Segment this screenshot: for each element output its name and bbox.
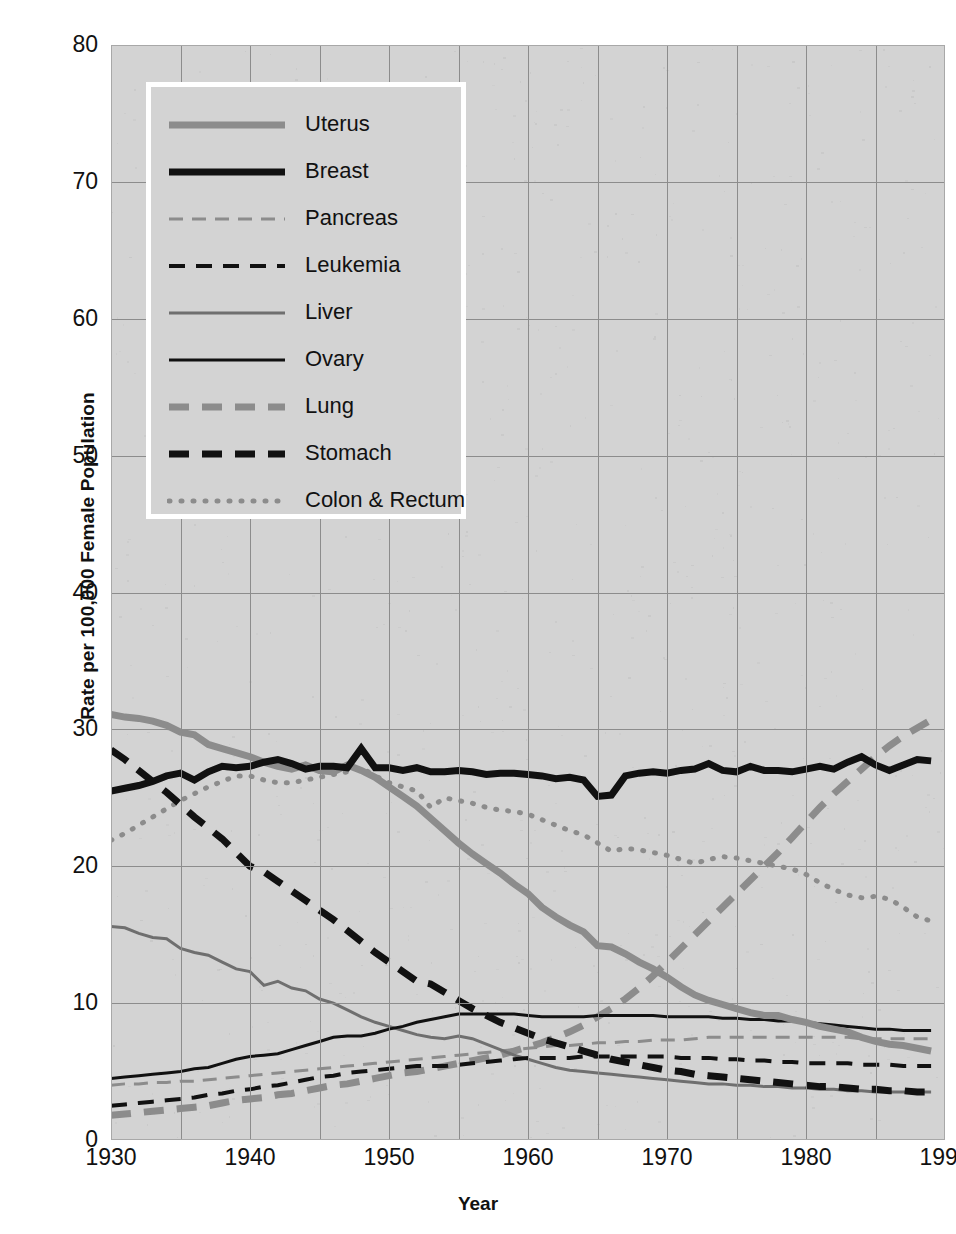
legend-item-uterus[interactable]: Uterus <box>151 101 461 149</box>
legend-swatch-icon <box>167 430 287 478</box>
y-tick-label: 20 <box>0 854 98 877</box>
legend-label: Stomach <box>305 441 392 465</box>
series-line-breast <box>111 749 931 797</box>
legend-swatch-icon <box>167 195 287 243</box>
legend-item-breast[interactable]: Breast <box>151 148 461 196</box>
legend-label: Uterus <box>305 112 370 136</box>
legend-item-ovary[interactable]: Ovary <box>151 336 461 384</box>
legend-swatch-icon <box>167 289 287 337</box>
y-tick-label: 40 <box>0 581 98 604</box>
x-tick-label: 1930 <box>51 1146 171 1169</box>
y-tick-label: 70 <box>0 170 98 193</box>
chart-figure: Rate per 100,000 Female Population Year … <box>0 0 956 1234</box>
gridline-horizontal <box>111 866 945 867</box>
series-line-leukemia <box>111 1057 931 1106</box>
x-tick-label: 1980 <box>746 1146 866 1169</box>
y-tick-label: 50 <box>0 444 98 467</box>
legend-swatch-icon <box>167 336 287 384</box>
legend-label: Colon & Rectum <box>305 488 465 512</box>
legend-swatch-icon <box>167 148 287 196</box>
legend-label: Breast <box>305 159 369 183</box>
legend-label: Leukemia <box>305 253 400 277</box>
y-tick-label: 60 <box>0 307 98 330</box>
legend-swatch-icon <box>167 383 287 431</box>
legend-item-pancreas[interactable]: Pancreas <box>151 195 461 243</box>
y-tick-label: 30 <box>0 717 98 740</box>
legend-item-lung[interactable]: Lung <box>151 383 461 431</box>
x-tick-label: 1990 <box>885 1146 956 1169</box>
gridline-horizontal <box>111 729 945 730</box>
x-tick-label: 1940 <box>190 1146 310 1169</box>
series-line-liver <box>111 926 931 1092</box>
x-tick-label: 1970 <box>607 1146 727 1169</box>
legend-item-colon-rectum[interactable]: Colon & Rectum <box>151 477 461 525</box>
legend-swatch-icon <box>167 477 287 525</box>
gridline-horizontal <box>111 1003 945 1004</box>
legend-swatch-icon <box>167 101 287 149</box>
chart-legend: UterusBreastPancreasLeukemiaLiverOvaryLu… <box>146 82 466 519</box>
legend-item-leukemia[interactable]: Leukemia <box>151 242 461 290</box>
series-line-stomach <box>111 750 931 1092</box>
x-axis-title: Year <box>0 1193 956 1215</box>
y-tick-label: 80 <box>0 33 98 56</box>
series-line-colon-rectum <box>111 768 931 921</box>
y-tick-label: 10 <box>0 991 98 1014</box>
legend-label: Lung <box>305 394 354 418</box>
gridline-horizontal <box>111 593 945 594</box>
legend-swatch-icon <box>167 242 287 290</box>
legend-label: Ovary <box>305 347 364 371</box>
legend-label: Liver <box>305 300 353 324</box>
x-tick-label: 1960 <box>468 1146 588 1169</box>
x-tick-label: 1950 <box>329 1146 449 1169</box>
legend-label: Pancreas <box>305 206 398 230</box>
legend-item-liver[interactable]: Liver <box>151 289 461 337</box>
legend-item-stomach[interactable]: Stomach <box>151 430 461 478</box>
